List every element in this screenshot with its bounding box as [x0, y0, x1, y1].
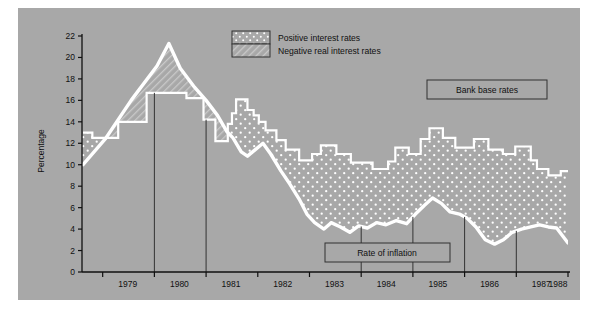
x-tick-label: 1985 [428, 279, 447, 289]
legend-label-negative: Negative real interest rates [278, 46, 381, 56]
rate-of-inflation-label: Rate of inflation [357, 248, 417, 258]
y-tick-label: 6 [70, 203, 75, 213]
area-fills [82, 44, 568, 244]
chart-figure: 0246810121416182022 19791980198119821983… [0, 0, 594, 322]
legend-label-positive: Positive interest rates [278, 33, 360, 43]
x-tick-label: 1981 [222, 279, 241, 289]
x-tick-label: 1979 [118, 279, 137, 289]
y-tick-labels: 0246810121416182022 [66, 31, 82, 277]
legend-swatch-positive [232, 31, 270, 44]
x-tick-label: 1983 [325, 279, 344, 289]
y-tick-label: 10 [66, 160, 76, 170]
x-tick-labels: 1979198019811982198319841985198619871988 [103, 272, 568, 289]
x-tick-label: 1980 [170, 279, 189, 289]
y-tick-label: 4 [70, 224, 75, 234]
legend-swatch-negative [232, 44, 270, 57]
chart-plot-area: 0246810121416182022 19791980198119821983… [0, 0, 594, 322]
y-tick-label: 2 [70, 246, 75, 256]
y-tick-label: 14 [66, 117, 76, 127]
x-tick-label: 1984 [377, 279, 396, 289]
y-tick-label: 12 [66, 138, 76, 148]
y-axis-title: Percentage [36, 129, 46, 173]
y-tick-label: 22 [66, 31, 76, 41]
rate-of-inflation-callout: Rate of inflation [325, 243, 450, 262]
chart-legend: Positive interest rates Negative real in… [232, 31, 381, 57]
bank-base-rates-callout: Bank base rates [427, 80, 547, 99]
y-tick-label: 0 [70, 267, 75, 277]
x-tick-label: 1986 [480, 279, 499, 289]
y-tick-label: 16 [66, 95, 76, 105]
y-tick-label: 18 [66, 74, 76, 84]
x-tick-label: 1988 [549, 279, 568, 289]
x-tick-label: 1982 [273, 279, 292, 289]
y-tick-label: 20 [66, 52, 76, 62]
bank-base-rates-label: Bank base rates [456, 85, 518, 95]
y-tick-label: 8 [70, 181, 75, 191]
